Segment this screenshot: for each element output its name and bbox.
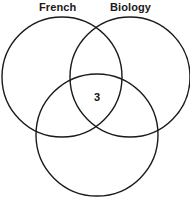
set-label-french: French bbox=[39, 1, 76, 13]
set-label-biology: Biology bbox=[110, 1, 151, 13]
venn-circle-biology bbox=[70, 17, 190, 137]
region-count-center: 3 bbox=[89, 91, 105, 103]
venn-circle-french bbox=[2, 17, 122, 137]
venn-diagram-screenshot: French Biology 3 bbox=[0, 0, 190, 199]
